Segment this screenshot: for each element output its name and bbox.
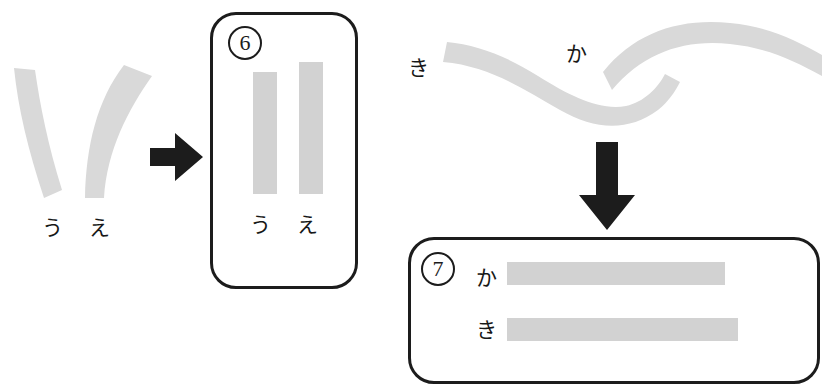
stroke-shape-u [14, 68, 62, 198]
band-shape-ki [443, 42, 680, 126]
straight-bar-u [253, 72, 277, 194]
band-shape-ka [603, 22, 822, 90]
card-label-e: え [297, 215, 318, 236]
card-label-ka: か [476, 268, 497, 289]
right-arrow-icon [148, 128, 206, 186]
source-label-ka: か [566, 44, 587, 65]
source-label-u: う [42, 218, 63, 239]
source-label-ki: き [408, 58, 429, 79]
source-strokes-right [430, 10, 824, 150]
step-number-six: 6 [228, 26, 262, 60]
down-arrow-icon [576, 140, 638, 232]
result-card-seven [408, 237, 820, 384]
source-label-e: え [89, 218, 110, 239]
straight-bar-ki [507, 318, 738, 341]
diagram-canvas: う え 6 う え き か 7 か き [0, 0, 824, 389]
straight-bar-e [299, 62, 323, 194]
stroke-shape-e [85, 65, 152, 198]
straight-bar-ka [507, 262, 725, 285]
card-label-u: う [250, 215, 271, 236]
card-label-ki: き [476, 320, 497, 341]
step-number-seven: 7 [421, 252, 455, 286]
